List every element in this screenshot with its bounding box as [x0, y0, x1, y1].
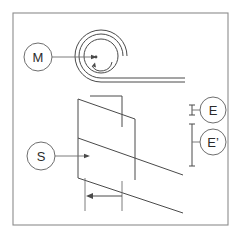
thickness-Eprime-dimension	[189, 124, 200, 166]
callout-S-arrowhead	[84, 154, 90, 158]
callout-S-label: S	[37, 149, 46, 164]
callout-M-arrowhead	[91, 55, 97, 59]
callout-M[interactable]: M	[24, 43, 52, 71]
sheet-mid-diagonal	[78, 138, 183, 175]
figure-container: M S E E’	[0, 0, 242, 239]
sheet-upper-diagonal	[78, 99, 135, 119]
coil-inner-circle	[84, 39, 118, 73]
sheet-top-tab	[90, 96, 122, 127]
callout-E[interactable]: E	[200, 97, 226, 123]
callout-Eprime[interactable]: E’	[200, 129, 226, 155]
technical-diagram-svg: M S E E’	[0, 0, 242, 239]
feed-arrow-head	[86, 193, 93, 199]
thickness-E-dimension	[189, 105, 200, 115]
callout-E-label: E	[209, 103, 218, 118]
callout-S[interactable]: S	[27, 142, 55, 170]
feed-width-dimension	[85, 178, 122, 211]
sheet-group	[78, 96, 183, 213]
callout-M-label: M	[33, 50, 44, 65]
callout-Eprime-label: E’	[207, 135, 219, 150]
